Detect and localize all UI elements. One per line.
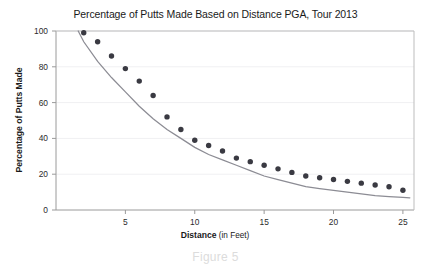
x-tick-label: 25 — [398, 217, 408, 227]
gridlines-group — [56, 31, 414, 174]
data-point — [81, 30, 86, 35]
data-point — [400, 188, 405, 193]
fitted-curve — [78, 31, 410, 198]
y-tick-label: 100 — [34, 26, 48, 36]
figure-container: Percentage of Putts Made Based on Distan… — [0, 0, 431, 277]
x-tick-label: 20 — [329, 217, 339, 227]
data-point — [261, 163, 266, 168]
putts-distance-scatter-chart: 020406080100 510152025 Percentage of Put… — [0, 0, 431, 248]
y-axis-ticks: 020406080100 — [34, 26, 56, 215]
x-tick-label: 15 — [259, 217, 269, 227]
x-axis-ticks: 510152025 — [123, 210, 408, 227]
y-tick-label: 20 — [39, 169, 49, 179]
data-point — [220, 148, 225, 153]
y-tick-label: 0 — [43, 205, 48, 215]
data-point — [331, 177, 336, 182]
data-point — [137, 78, 142, 83]
data-point — [109, 53, 114, 58]
data-point — [317, 175, 322, 180]
x-axis-title: Distance (in Feet) — [181, 230, 250, 240]
figure-caption: Figure 5 — [0, 250, 431, 264]
x-tick-label: 10 — [190, 217, 200, 227]
data-point — [359, 180, 364, 185]
data-point — [275, 166, 280, 171]
y-tick-label: 40 — [39, 133, 49, 143]
data-point — [123, 66, 128, 71]
x-axis-title-sub: (in Feet) — [217, 231, 250, 240]
y-tick-label: 80 — [39, 62, 49, 72]
data-point — [289, 170, 294, 175]
data-point — [95, 39, 100, 44]
data-point — [303, 173, 308, 178]
y-axis-title: Percentage of Putts Made — [14, 67, 24, 172]
data-point — [345, 179, 350, 184]
x-axis-title-bold: Distance — [181, 230, 217, 240]
data-point — [178, 127, 183, 132]
data-point — [248, 159, 253, 164]
data-point — [234, 155, 239, 160]
x-tick-label: 5 — [123, 217, 128, 227]
data-point — [150, 93, 155, 98]
y-tick-label: 60 — [39, 98, 49, 108]
data-point — [164, 114, 169, 119]
data-point — [372, 182, 377, 187]
data-point — [206, 143, 211, 148]
data-point — [192, 137, 197, 142]
data-point — [386, 184, 391, 189]
